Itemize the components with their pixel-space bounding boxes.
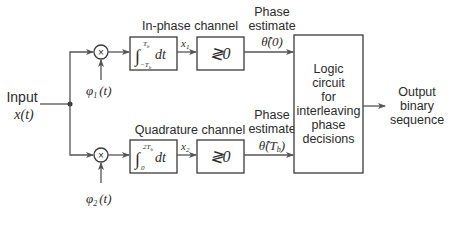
phase-estimate-1-label-a: Phase xyxy=(254,5,289,19)
in-phase-channel-label: In-phase channel xyxy=(142,19,238,33)
basis-1-label: φ1(t) xyxy=(86,83,111,100)
in-phase-channel: × φ1(t) In-phase channel ∫ Tb −Tb dt x1 … xyxy=(86,5,296,100)
multiply-icon: × xyxy=(98,47,104,58)
phase-estimate-2-label-a: Phase xyxy=(254,108,289,122)
comparator-1-symbol: ≷0 xyxy=(210,45,231,62)
output-line-1: Output xyxy=(398,85,436,99)
quadrature-channel-label: Quadrature channel xyxy=(135,123,246,137)
logic-line-4: interleaving xyxy=(297,104,361,118)
lower-branch-line xyxy=(70,104,93,155)
integrator-1-dt: dt xyxy=(155,47,167,62)
phase-estimate-1-label-b: estimate xyxy=(248,19,295,33)
integrator-2-lower: 0 xyxy=(141,164,145,172)
x2-label: x2 xyxy=(180,140,190,154)
phase-estimate-2-label-b: estimate xyxy=(248,122,295,136)
output-line-2: binary xyxy=(400,99,435,113)
phase-estimate-2-value: θ̂(Tb) xyxy=(259,138,285,154)
output-line-3: sequence xyxy=(390,113,444,127)
quadrature-channel: × φ2(t) Quadrature channel ∫ 2Tb 0 dt x2… xyxy=(86,108,296,208)
comparator-2-symbol: ≷0 xyxy=(210,148,231,165)
basis-2-label: φ2(t) xyxy=(86,191,111,208)
logic-line-2: circuit xyxy=(312,76,345,90)
logic-line-5: phase xyxy=(311,118,345,132)
input-text: Input xyxy=(6,89,37,105)
logic-line-6: decisions xyxy=(302,132,354,146)
multiply-icon: × xyxy=(98,150,104,161)
block-diagram: Input x(t) × φ1(t) In-phase channel ∫ Tb… xyxy=(0,0,449,226)
x1-label: x1 xyxy=(180,37,189,51)
input-label: Input x(t) xyxy=(6,89,37,123)
phase-estimate-1-value: θ̂(0) xyxy=(261,34,283,49)
input-signal: x(t) xyxy=(13,107,34,123)
output-label: Output binary sequence xyxy=(390,85,444,127)
logic-line-3: for xyxy=(321,90,336,104)
integrator-2-dt: dt xyxy=(155,150,167,165)
logic-line-1: Logic xyxy=(314,62,344,76)
